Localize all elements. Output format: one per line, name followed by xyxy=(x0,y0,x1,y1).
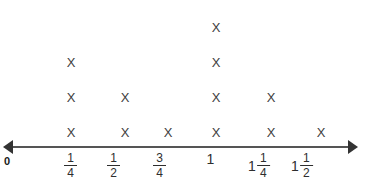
x-mark: X xyxy=(67,91,76,103)
number-line-axis xyxy=(10,146,354,148)
tick-whole-part: 1 xyxy=(207,152,216,166)
x-mark: X xyxy=(212,21,221,33)
x-stack-three-quarters: X xyxy=(164,126,173,138)
fraction-one-quarter: 1 4 xyxy=(64,152,77,179)
fraction-denominator: 4 xyxy=(65,166,76,179)
fraction-denominator: 2 xyxy=(108,166,119,179)
tick-label-one-and-one-quarter: 1 1 4 xyxy=(248,152,270,179)
x-mark: X xyxy=(121,126,130,138)
tick-label-one: 1 xyxy=(207,152,216,166)
fraction-denominator: 2 xyxy=(301,166,312,179)
x-mark: X xyxy=(267,126,276,138)
origin-label: 0 xyxy=(4,155,10,167)
fraction-numerator: 3 xyxy=(154,152,165,165)
fraction-numerator: 1 xyxy=(301,152,312,165)
fraction-three-quarters: 3 4 xyxy=(153,152,166,179)
fraction-denominator: 4 xyxy=(154,166,165,179)
line-plot: 0 1 4 1 2 3 4 1 1 1 4 xyxy=(0,0,374,188)
right-arrow-icon xyxy=(348,140,358,154)
x-mark: X xyxy=(212,91,221,103)
fraction-one-half: 1 2 xyxy=(300,152,313,179)
x-stack-one-and-one-quarter: XX xyxy=(267,91,276,138)
fraction-numerator: 1 xyxy=(108,152,119,165)
tick-label-three-quarters: 3 4 xyxy=(152,152,166,179)
tick-whole-part: 1 xyxy=(248,159,257,173)
x-mark: X xyxy=(67,56,76,68)
fraction-denominator: 4 xyxy=(258,166,269,179)
tick-label-one-quarter: 1 4 xyxy=(63,152,77,179)
x-mark: X xyxy=(164,126,173,138)
tick-label-one-half: 1 2 xyxy=(106,152,120,179)
x-mark: X xyxy=(267,91,276,103)
x-mark: X xyxy=(67,126,76,138)
tick-label-one-and-one-half: 1 1 2 xyxy=(291,152,313,179)
tick-whole-part: 1 xyxy=(291,159,300,173)
left-arrow-icon xyxy=(3,140,13,154)
x-mark: X xyxy=(317,126,326,138)
x-mark: X xyxy=(121,91,130,103)
x-stack-one-half: XX xyxy=(121,91,130,138)
x-stack-one-quarter: XXX xyxy=(67,56,76,138)
x-mark: X xyxy=(212,56,221,68)
x-stack-one-and-one-half: X xyxy=(317,126,326,138)
x-stack-one: XXXX xyxy=(212,21,221,138)
fraction-numerator: 1 xyxy=(258,152,269,165)
fraction-one-half: 1 2 xyxy=(107,152,120,179)
x-mark: X xyxy=(212,126,221,138)
fraction-one-quarter: 1 4 xyxy=(257,152,270,179)
fraction-numerator: 1 xyxy=(65,152,76,165)
